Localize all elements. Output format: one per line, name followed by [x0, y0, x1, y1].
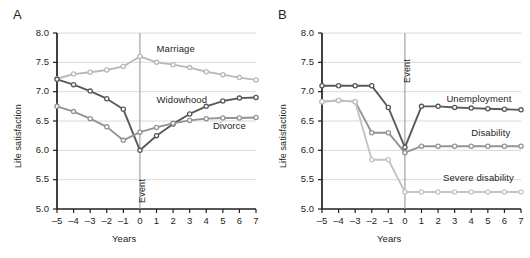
data-point-marker	[370, 131, 374, 135]
data-point-marker	[353, 100, 357, 104]
data-point-marker	[486, 144, 490, 148]
data-point-marker	[386, 158, 390, 162]
data-point-marker	[171, 121, 175, 125]
event-marker-label: Event	[137, 179, 147, 203]
data-point-marker	[71, 83, 75, 87]
x-tick-label: –3	[81, 215, 99, 226]
x-tick-label: 5	[214, 215, 232, 226]
y-tick-label: 8.0	[23, 27, 49, 38]
data-point-marker	[419, 104, 423, 108]
data-point-marker	[403, 145, 407, 149]
y-tick-label: 8.0	[288, 27, 314, 38]
x-tick-label: 1	[413, 215, 431, 226]
data-point-marker	[71, 110, 75, 114]
data-point-marker	[336, 98, 340, 102]
data-point-marker	[403, 151, 407, 155]
x-tick-label: 6	[230, 215, 248, 226]
y-tick-label: 5.5	[23, 173, 49, 184]
data-point-marker	[453, 144, 457, 148]
x-tick-label: –1	[379, 215, 397, 226]
x-tick-label: 3	[446, 215, 464, 226]
data-point-marker	[419, 190, 423, 194]
data-point-marker	[320, 84, 324, 88]
data-point-marker	[237, 75, 241, 79]
data-point-marker	[519, 144, 523, 148]
data-point-marker	[419, 144, 423, 148]
data-point-marker	[254, 95, 258, 99]
x-tick-label: 2	[164, 215, 182, 226]
data-point-marker	[204, 70, 208, 74]
data-point-marker	[336, 84, 340, 88]
x-tick-label: 3	[181, 215, 199, 226]
x-tick-label: –5	[313, 215, 331, 226]
data-point-marker	[502, 144, 506, 148]
data-point-marker	[88, 70, 92, 74]
data-point-marker	[519, 190, 523, 194]
data-point-marker	[353, 84, 357, 88]
x-tick-label: 7	[512, 215, 530, 226]
data-point-marker	[237, 96, 241, 100]
x-tick-label: 1	[148, 215, 166, 226]
figure-life-satisfaction-events: A Life satisfaction Years 5.05.56.06.57.…	[0, 0, 530, 258]
data-point-marker	[88, 117, 92, 121]
data-point-marker	[71, 72, 75, 76]
data-point-marker	[254, 115, 258, 119]
y-tick-label: 7.5	[288, 56, 314, 67]
y-tick-label: 5.0	[288, 203, 314, 214]
x-tick-label: 0	[396, 215, 414, 226]
data-point-marker	[386, 105, 390, 109]
data-point-marker	[403, 190, 407, 194]
data-point-marker	[121, 107, 125, 111]
data-point-marker	[121, 138, 125, 142]
data-point-marker	[154, 125, 158, 129]
data-point-marker	[436, 144, 440, 148]
data-point-marker	[154, 134, 158, 138]
panel-a: A Life satisfaction Years 5.05.56.06.57.…	[0, 0, 265, 258]
data-point-marker	[519, 108, 523, 112]
data-point-marker	[204, 117, 208, 121]
y-tick-label: 5.0	[23, 203, 49, 214]
data-point-marker	[502, 107, 506, 111]
y-tick-label: 6.0	[23, 144, 49, 155]
data-point-marker	[436, 104, 440, 108]
data-point-marker	[105, 68, 109, 72]
data-point-marker	[171, 63, 175, 67]
data-point-marker	[453, 190, 457, 194]
data-point-marker	[469, 144, 473, 148]
x-tick-label: 0	[131, 215, 149, 226]
y-tick-label: 6.5	[23, 115, 49, 126]
data-point-marker	[105, 97, 109, 101]
data-point-marker	[370, 158, 374, 162]
data-point-marker	[221, 99, 225, 103]
data-point-marker	[105, 125, 109, 129]
y-tick-label: 7.0	[23, 85, 49, 96]
x-tick-label: –2	[363, 215, 381, 226]
x-tick-label: –5	[48, 215, 66, 226]
y-tick-label: 7.0	[288, 85, 314, 96]
x-tick-label: –3	[346, 215, 364, 226]
y-tick-label: 7.5	[23, 56, 49, 67]
data-point-marker	[188, 112, 192, 116]
x-tick-label: 4	[197, 215, 215, 226]
data-point-marker	[221, 73, 225, 77]
x-tick-label: 7	[247, 215, 265, 226]
y-tick-label: 5.5	[288, 173, 314, 184]
x-tick-label: 5	[479, 215, 497, 226]
series-line-widowhood	[57, 79, 256, 150]
data-point-marker	[370, 84, 374, 88]
data-point-marker	[154, 60, 158, 64]
data-point-marker	[502, 190, 506, 194]
x-tick-label: 6	[495, 215, 513, 226]
series-annotation-disability: Disability	[471, 127, 510, 138]
event-marker-label: Event	[402, 59, 412, 83]
data-point-marker	[254, 78, 258, 82]
x-tick-label: 4	[462, 215, 480, 226]
data-point-marker	[55, 77, 59, 81]
series-annotation-marriage: Marriage	[157, 43, 195, 54]
data-point-marker	[188, 66, 192, 70]
data-point-marker	[138, 148, 142, 152]
data-point-marker	[436, 190, 440, 194]
data-point-marker	[121, 64, 125, 68]
x-tick-label: –4	[65, 215, 83, 226]
x-tick-label: 2	[429, 215, 447, 226]
